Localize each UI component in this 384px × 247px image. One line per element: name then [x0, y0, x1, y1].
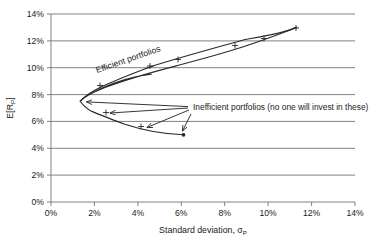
y-tick-label-2: 2% — [32, 170, 45, 180]
arrow-to-lower-branch — [147, 110, 189, 128]
y-axis-title-main: E[R — [5, 104, 15, 119]
arrow-to-vertex — [87, 102, 189, 107]
x-axis-title-subscript: P — [243, 229, 247, 236]
x-tick-label-8: 8% — [218, 208, 231, 218]
y-tick-labels: 14% 12% 10% 8% 6% 4% 2% 0% — [27, 9, 45, 207]
efficient-frontier-chart: 14% 12% 10% 8% 6% 4% 2% 0% 0% 2% 4% 6% 8… — [0, 0, 384, 247]
y-tick-label-4: 4% — [32, 143, 45, 153]
gridlines — [51, 14, 355, 175]
marker-upper-6 — [293, 25, 299, 31]
y-tick-label-6: 6% — [32, 116, 45, 126]
y-axis-title-tail: ] — [5, 97, 15, 99]
y-tick-label-12: 12% — [27, 36, 45, 46]
y-axis-ticks — [47, 14, 51, 202]
y-tick-label-14: 14% — [27, 9, 45, 19]
y-tick-label-8: 8% — [32, 90, 45, 100]
chart-canvas: 14% 12% 10% 8% 6% 4% 2% 0% 0% 2% 4% 6% 8… — [0, 0, 384, 247]
x-axis-ticks — [51, 202, 355, 206]
x-tick-labels: 0% 2% 4% 6% 8% 10% 12% 14% — [45, 208, 364, 218]
x-tick-label-4: 4% — [132, 208, 145, 218]
x-tick-label-10: 10% — [259, 208, 277, 218]
svg-text:Standard deviation, σP: Standard deviation, σP — [159, 225, 247, 236]
arrow-to-endpoint — [183, 114, 192, 131]
x-axis-title-main: Standard deviation, σ — [159, 225, 243, 235]
x-axis-title: Standard deviation, σP — [159, 225, 247, 236]
y-tick-label-10: 10% — [27, 63, 45, 73]
x-tick-label-12: 12% — [303, 208, 321, 218]
x-tick-label-14: 14% — [346, 208, 364, 218]
data-point-markers — [97, 25, 299, 137]
efficient-portfolios-label: Efficient portfolios — [94, 43, 161, 74]
marker-lower-1 — [103, 110, 109, 116]
x-tick-label-2: 2% — [88, 208, 101, 218]
inefficient-portfolios-annotation: Inefficient portfolios (no one will inve… — [193, 102, 369, 112]
svg-text:E[RP]: E[RP] — [5, 97, 16, 118]
y-axis-title: E[RP] — [5, 97, 16, 118]
arrow-to-mid-lower — [110, 108, 188, 113]
efficient-portfolios-annotation: Efficient portfolios — [94, 43, 161, 74]
marker-lower-endpoint — [182, 133, 186, 137]
y-tick-label-0: 0% — [32, 197, 45, 207]
inefficient-branch-path — [80, 101, 183, 135]
inefficient-portfolios-label: Inefficient portfolios (no one will inve… — [193, 102, 369, 112]
x-tick-label-0: 0% — [45, 208, 58, 218]
x-tick-label-6: 6% — [175, 208, 188, 218]
